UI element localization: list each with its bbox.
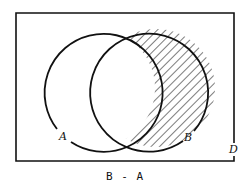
caption: B - A [0, 170, 247, 183]
set-a-label: A [59, 131, 67, 142]
universe-label: D [229, 144, 238, 155]
venn-diagram [0, 0, 247, 184]
set-b-label: B [184, 132, 192, 143]
